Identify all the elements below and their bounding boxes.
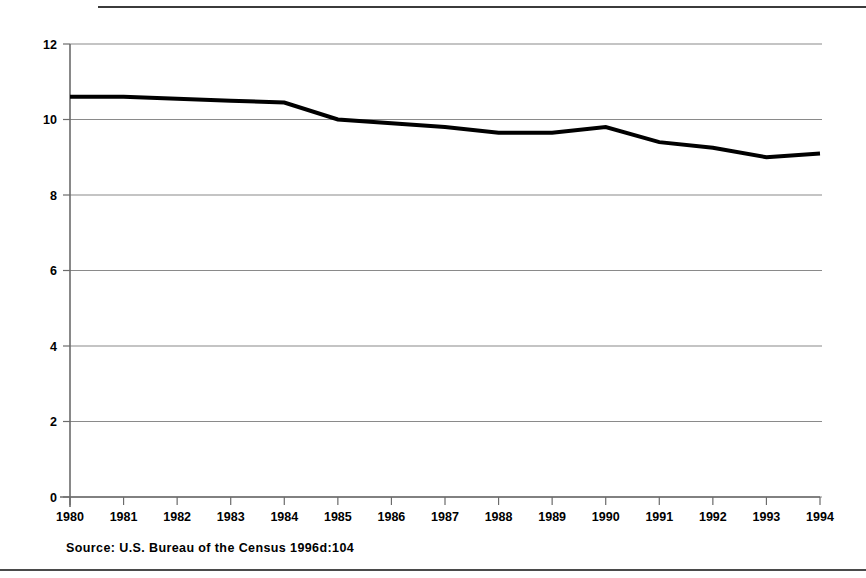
y-tick-labels-group: 024681012 (43, 38, 57, 505)
data-series-line (70, 97, 820, 157)
figure-container: 024681012 198019811982198319841985198619… (0, 0, 866, 578)
x-axis-group (60, 497, 820, 505)
y-tick-label: 4 (50, 340, 57, 354)
x-tick-label: 1990 (592, 510, 620, 524)
gridlines-group (70, 44, 822, 497)
y-tick-label: 12 (43, 38, 57, 52)
x-tick-labels-group: 1980198119821983198419851986198719881989… (56, 510, 834, 524)
x-tick-label: 1984 (270, 510, 298, 524)
x-tick-label: 1988 (485, 510, 513, 524)
x-tick-label: 1981 (110, 510, 138, 524)
x-tick-label: 1993 (753, 510, 781, 524)
x-tick-label: 1987 (431, 510, 459, 524)
x-tick-label: 1980 (56, 510, 84, 524)
x-tick-label: 1994 (806, 510, 834, 524)
y-tick-label: 2 (50, 415, 57, 429)
x-tick-label: 1992 (699, 510, 727, 524)
x-tick-label: 1983 (217, 510, 245, 524)
figure-bottom-rule (0, 569, 866, 571)
x-tick-label: 1985 (324, 510, 352, 524)
y-tick-label: 8 (50, 189, 57, 203)
x-tick-label: 1991 (645, 510, 673, 524)
x-tick-label: 1989 (538, 510, 566, 524)
x-tick-label: 1982 (163, 510, 191, 524)
y-tick-label: 10 (43, 113, 57, 127)
data-series-line-group (70, 97, 820, 157)
source-note: Source: U.S. Bureau of the Census 1996d:… (66, 541, 354, 555)
line-chart: 024681012 198019811982198319841985198619… (0, 0, 866, 578)
y-axis-group (63, 44, 70, 507)
y-tick-label: 6 (50, 264, 57, 278)
y-tick-label: 0 (50, 491, 57, 505)
chart-plot-area: 024681012 198019811982198319841985198619… (0, 0, 866, 578)
x-tick-label: 1986 (378, 510, 406, 524)
